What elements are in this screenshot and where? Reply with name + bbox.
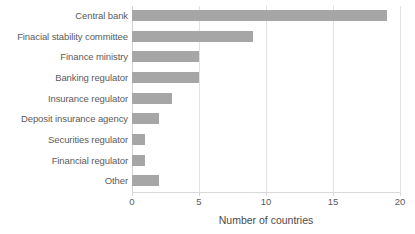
- category-axis-labels: Central bankFinacial stability committee…: [0, 6, 128, 192]
- bar-row: [132, 6, 400, 27]
- plot-area: [132, 6, 400, 192]
- bar: [132, 10, 387, 21]
- x-axis-title: Number of countries: [132, 214, 400, 226]
- x-tick-label: 20: [385, 196, 415, 208]
- category-label: Central bank: [4, 10, 128, 21]
- category-label: Financial regulator: [4, 155, 128, 166]
- bar: [132, 175, 159, 186]
- bar: [132, 155, 145, 166]
- x-tick-label: 15: [318, 196, 348, 208]
- category-label: Finance ministry: [4, 51, 128, 62]
- gridline: [400, 6, 401, 192]
- bar: [132, 134, 145, 145]
- category-label: Finacial stability committee: [4, 31, 128, 42]
- category-label: Insurance regulator: [4, 93, 128, 104]
- x-tick-label: 10: [251, 196, 281, 208]
- bar-row: [132, 151, 400, 172]
- x-tick-label: 5: [184, 196, 214, 208]
- bar: [132, 93, 172, 104]
- bar-chart: Central bankFinacial stability committee…: [0, 0, 415, 234]
- category-label: Deposit insurance agency: [4, 113, 128, 124]
- category-label: Securities regulator: [4, 134, 128, 145]
- bar-row: [132, 47, 400, 68]
- bar-row: [132, 130, 400, 151]
- bar-row: [132, 68, 400, 89]
- bar-row: [132, 89, 400, 110]
- bar: [132, 113, 159, 124]
- bar: [132, 72, 199, 83]
- bar-row: [132, 27, 400, 48]
- x-tick-label: 0: [117, 196, 147, 208]
- bar-row: [132, 171, 400, 192]
- bar-row: [132, 109, 400, 130]
- category-label: Banking regulator: [4, 72, 128, 83]
- category-label: Other: [4, 175, 128, 186]
- bar: [132, 31, 253, 42]
- bar: [132, 51, 199, 62]
